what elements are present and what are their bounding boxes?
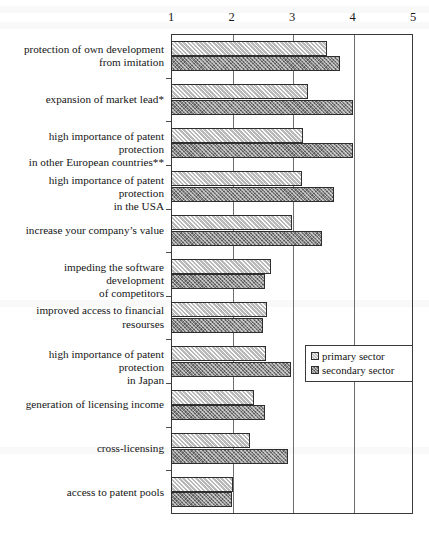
x-axis-tick-4: 4 — [349, 10, 355, 24]
category-label: protection of own developmentfrom imitat… — [4, 43, 164, 69]
bar-primary-sector — [171, 433, 250, 448]
legend: primary sector secondary sector — [305, 345, 413, 382]
category-label-line: in the USA — [4, 200, 164, 213]
category-label-line: access to patent pools — [4, 486, 164, 499]
category-label-line: of competitors — [4, 287, 164, 300]
category-label: cross-licensing — [4, 442, 164, 455]
bar-secondary-sector — [171, 362, 291, 377]
category-label-line: increase your company’s value — [4, 224, 164, 237]
category-label: high importance of patent protectionin t… — [4, 174, 164, 214]
category-label: impeding the software developmentof comp… — [4, 261, 164, 301]
category-label-line: expansion of market lead* — [4, 93, 164, 106]
bar-secondary-sector — [171, 405, 265, 420]
bar-secondary-sector — [171, 100, 353, 115]
bar-secondary-sector — [171, 56, 340, 71]
bar-primary-sector — [171, 171, 302, 186]
bar-primary-sector — [171, 302, 267, 317]
category-label-line: resourses — [4, 318, 164, 331]
category-label: high importance of patent protectionin o… — [4, 130, 164, 170]
x-axis-tick-3: 3 — [289, 10, 295, 24]
bar-secondary-sector — [171, 318, 263, 333]
bar-secondary-sector — [171, 231, 322, 246]
x-axis-tick-1: 1 — [168, 10, 174, 24]
legend-item-secondary-sector: secondary sector — [311, 363, 407, 377]
bar-chart: 12345 protection of own developmentfrom … — [0, 0, 429, 534]
legend-swatch-secondary-icon — [311, 366, 319, 374]
bar-primary-sector — [171, 477, 233, 492]
category-label-line: high importance of patent protection — [4, 130, 164, 156]
category-label-line: impeding the software development — [4, 261, 164, 287]
scan-artifact — [0, 22, 429, 29]
legend-item-primary-sector: primary sector — [311, 349, 407, 363]
bar-secondary-sector — [171, 187, 334, 202]
legend-label-secondary: secondary sector — [322, 363, 394, 377]
category-label-line: generation of licensing income — [4, 398, 164, 411]
bar-primary-sector — [171, 390, 254, 405]
bar-primary-sector — [171, 128, 303, 143]
bar-secondary-sector — [171, 492, 232, 507]
gridline-4 — [354, 35, 355, 513]
category-label: generation of licensing income — [4, 398, 164, 411]
category-label-line: in Japan — [4, 374, 164, 387]
bar-secondary-sector — [171, 449, 288, 464]
category-label: improved access to financialresourses — [4, 304, 164, 330]
scan-artifact — [0, 6, 429, 13]
category-label: access to patent pools — [4, 486, 164, 499]
category-label-line: in other European countries** — [4, 156, 164, 169]
bar-primary-sector — [171, 84, 308, 99]
category-label-line: high importance of patent protection — [4, 174, 164, 200]
bar-primary-sector — [171, 41, 327, 56]
category-label-line: cross-licensing — [4, 442, 164, 455]
bar-primary-sector — [171, 259, 271, 274]
category-label: increase your company’s value — [4, 224, 164, 237]
legend-label-primary: primary sector — [322, 349, 385, 363]
x-axis-tick-2: 2 — [228, 10, 234, 24]
bar-secondary-sector — [171, 274, 265, 289]
bar-primary-sector — [171, 215, 292, 230]
bar-primary-sector — [171, 346, 266, 361]
x-axis-tick-5: 5 — [410, 10, 416, 24]
category-label-line: improved access to financial — [4, 304, 164, 317]
category-label-line: protection of own development — [4, 43, 164, 56]
legend-swatch-primary-icon — [311, 352, 319, 360]
category-label-line: from imitation — [4, 56, 164, 69]
category-label: expansion of market lead* — [4, 93, 164, 106]
category-label-line: high importance of patent protection — [4, 348, 164, 374]
bar-secondary-sector — [171, 143, 353, 158]
category-label: high importance of patent protectionin J… — [4, 348, 164, 388]
